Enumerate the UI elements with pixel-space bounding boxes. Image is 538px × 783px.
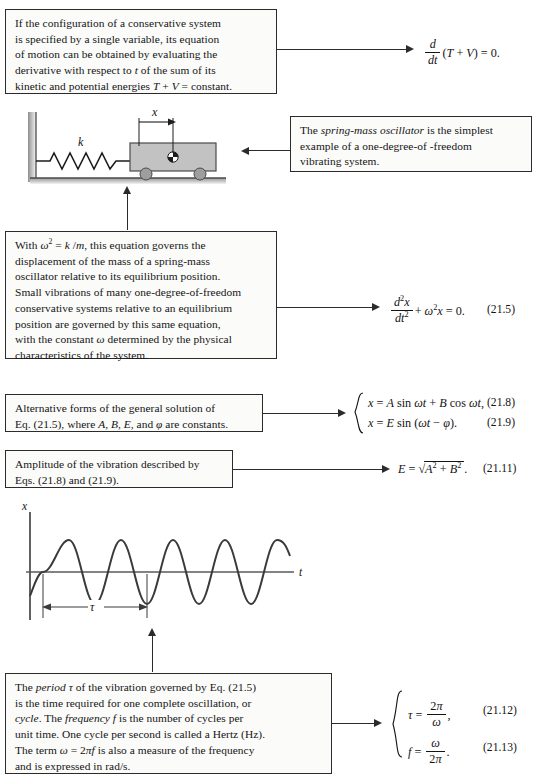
connector-arrowhead — [406, 45, 414, 53]
callout-line: Eqs. (21.8) and (21.9). — [15, 473, 224, 489]
callout-line: The term ω = 2πf is also a measure of th… — [15, 743, 323, 759]
fraction: d2x dt2 — [391, 296, 413, 325]
equation-number-21-5: (21.5) — [487, 303, 515, 316]
spring — [36, 153, 130, 169]
connector-arrowhead — [374, 719, 382, 727]
connector-line — [249, 150, 291, 151]
connector-arrowhead — [241, 147, 249, 155]
connector-arrowhead — [382, 465, 390, 473]
callout-line: is the time required for one complete os… — [15, 696, 323, 712]
connector-line — [277, 49, 408, 50]
equation-energy-derivative: d dt (T + V) = 0. — [423, 38, 500, 67]
fraction-numerator: d2x — [391, 296, 413, 311]
callout-alternative-forms: Alternative forms of the general solutio… — [5, 394, 263, 432]
callout-amplitude: Amplitude of the vibration described by … — [5, 450, 233, 488]
connector-line — [127, 192, 128, 230]
wall — [28, 112, 36, 182]
equation-body: (T + V) = 0. — [442, 46, 499, 60]
fraction: d dt — [425, 38, 440, 67]
callout-line: Eq. (21.5), where A, B, E, and φ are con… — [15, 417, 254, 433]
fraction-denominator: 2π — [426, 752, 444, 766]
callout-governing-equation: With ω2 = k /m, this equation governs th… — [5, 231, 277, 359]
fraction-numerator: 2π — [427, 700, 445, 715]
callout-line: The spring-mass oscillator is the simple… — [300, 123, 523, 139]
equation-number-21-8: (21.8) — [487, 396, 515, 409]
equation-lhs: τ = — [408, 708, 422, 722]
callout-line: With ω2 = k /m, this equation governs th… — [15, 238, 268, 254]
callout-line: of motion can be obtained by evaluating … — [15, 47, 268, 63]
label-spring-constant: k — [78, 135, 84, 149]
equation-21-12: τ = 2π ω , — [408, 700, 451, 729]
callout-line: Amplitude of the vibration described by — [15, 457, 224, 473]
callout-line: derivative with respect to t of the sum … — [15, 63, 268, 79]
callout-conservative-system: If the configuration of a conservative s… — [5, 9, 277, 94]
equation-body: + ω2x = 0. — [415, 304, 465, 318]
fraction-denominator: dt2 — [391, 311, 413, 325]
callout-line: unit time. One cycle per second is calle… — [15, 727, 323, 743]
equation-21-13: f = ω 2π . — [408, 737, 450, 766]
connector-line — [332, 723, 376, 724]
callout-line: example of a one-degree-of -freedom — [300, 139, 523, 155]
displacement-arrowhead — [168, 119, 176, 126]
equation-21-9: x = E sin (ωt − φ). — [368, 416, 457, 431]
callout-line: cycle. The frequency f is the number of … — [15, 711, 323, 727]
spring-mass-diagram: k x — [20, 108, 238, 194]
fraction-denominator: dt — [425, 53, 440, 67]
connector-line — [233, 469, 384, 470]
wheel-right — [194, 168, 206, 180]
fraction: 2π ω — [427, 700, 445, 729]
callout-spring-mass-oscillator: The spring-mass oscillator is the simple… — [290, 116, 532, 172]
equation-tail: , — [448, 708, 451, 722]
callout-line: is specified by a single variable, its e… — [15, 32, 268, 48]
callout-line: with the constant ω determined by the ph… — [15, 332, 268, 348]
callout-period-frequency: The period τ of the vibration governed b… — [5, 673, 332, 774]
equation-number-21-11: (21.11) — [483, 462, 516, 475]
curly-brace-icon — [389, 690, 405, 758]
equation-brace-group-21-12-21-13 — [389, 690, 405, 758]
connector-line — [263, 413, 340, 414]
fraction-numerator: ω — [426, 737, 444, 752]
radicand: A2 + B2 — [424, 461, 464, 477]
period-label: τ — [90, 600, 95, 614]
wheel-left — [140, 168, 152, 180]
callout-line: characteristics of the system. — [15, 348, 268, 364]
callout-line: position are governed by this same equat… — [15, 317, 268, 333]
equation-brace-group-21-8-21-9 — [351, 392, 365, 434]
callout-line: conservative systems relative to an equi… — [15, 301, 268, 317]
equation-21-11: E = √A2 + B2. — [398, 461, 467, 477]
connector-arrowhead — [123, 186, 131, 194]
curly-brace-icon — [351, 392, 365, 434]
equation-body: x = A sin ωt + B cos ωt, — [368, 396, 484, 410]
connector-arrowhead — [148, 628, 156, 636]
connector-arrowhead — [372, 303, 380, 311]
equation-tail: . — [447, 745, 450, 759]
connector-line — [277, 307, 374, 308]
callout-line: kinetic and potential energies T + V = c… — [15, 79, 268, 95]
callout-line: displacement of the mass of a spring-mas… — [15, 254, 268, 270]
textbook-page: If the configuration of a conservative s… — [0, 0, 538, 783]
fraction-denominator: ω — [427, 715, 445, 729]
axis-label-t: t — [299, 566, 303, 578]
callout-line: and is expressed in rad/s. — [15, 759, 323, 775]
equation-number-21-9: (21.9) — [487, 416, 515, 429]
callout-line: Small vibrations of many one-degree-of-f… — [15, 285, 268, 301]
callout-line: If the configuration of a conservative s… — [15, 16, 268, 32]
callout-line: vibrating system. — [300, 154, 523, 170]
center-of-mass-symbol — [168, 152, 178, 162]
connector-line — [152, 634, 153, 672]
fraction: ω 2π — [426, 737, 444, 766]
equation-number-21-13: (21.13) — [483, 741, 517, 754]
equation-number-21-12: (21.12) — [483, 704, 517, 717]
equation-21-8: x = A sin ωt + B cos ωt, — [368, 396, 484, 411]
callout-line: oscillator relative to its equilibrium p… — [15, 269, 268, 285]
connector-arrowhead — [338, 409, 346, 417]
equation-21-5: d2x dt2 + ω2x = 0. — [389, 296, 465, 325]
equation-body: x = E sin (ωt − φ). — [368, 416, 457, 430]
equation-body: E = √A2 + B2. — [398, 462, 467, 476]
vibration-waveform: x t τ — [12, 500, 322, 630]
callout-line: The period τ of the vibration governed b… — [15, 680, 323, 696]
equation-lhs: f = — [408, 745, 421, 759]
axis-label-x: x — [21, 500, 28, 512]
callout-line: Alternative forms of the general solutio… — [15, 401, 254, 417]
fraction-numerator: d — [425, 38, 440, 53]
